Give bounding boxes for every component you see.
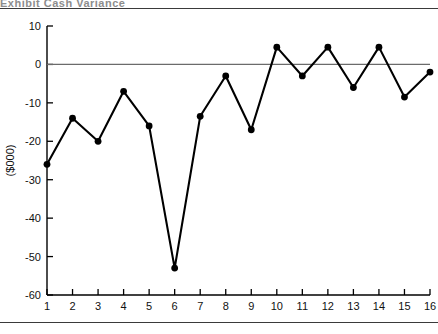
data-point — [44, 161, 51, 168]
x-axis-tick-label: 11 — [297, 300, 308, 312]
y-axis-tick-label: -30 — [25, 174, 41, 186]
data-point — [120, 88, 127, 95]
x-axis-tick-label: 14 — [373, 300, 385, 312]
y-axis-tick-label: -20 — [25, 135, 41, 147]
chart-svg: 100-10-20-30-40-50-60 123456789101112131… — [0, 8, 438, 322]
x-axis-tick-label: 8 — [223, 300, 229, 312]
line-chart: 100-10-20-30-40-50-60 123456789101112131… — [0, 8, 438, 322]
y-axis-tick-label: -10 — [25, 97, 41, 109]
x-axis-tick-label: 5 — [146, 300, 152, 312]
x-axis-tick-label: 16 — [424, 300, 436, 312]
x-axis-tick-label: 7 — [197, 300, 203, 312]
y-axis-tick-label: 0 — [35, 58, 41, 70]
data-point — [350, 84, 357, 91]
data-point — [171, 265, 178, 272]
data-point — [248, 126, 255, 133]
y-axis-tick-label: -40 — [25, 212, 41, 224]
data-point — [273, 44, 280, 51]
x-axis-tick-label: 13 — [347, 300, 359, 312]
x-axis-tick-label: 9 — [248, 300, 254, 312]
page-rule-bottom — [0, 322, 438, 323]
x-axis-tick-label: 1 — [44, 300, 50, 312]
x-axis-tick-label: 12 — [322, 300, 334, 312]
x-axis-ticks — [47, 289, 430, 295]
data-point — [427, 69, 434, 76]
data-point — [401, 94, 408, 101]
data-point — [69, 115, 76, 122]
y-axis-label: ($000) — [4, 145, 16, 177]
x-axis-tick-label: 3 — [95, 300, 101, 312]
clipped-header-text: Exhibit Cash Variance — [0, 0, 180, 7]
x-axis-tick-label: 2 — [69, 300, 75, 312]
x-axis-tick-label: 6 — [172, 300, 178, 312]
y-axis-tick-label: -60 — [25, 289, 41, 301]
data-point — [299, 73, 306, 80]
y-axis-tick-labels: 100-10-20-30-40-50-60 — [25, 20, 41, 301]
x-axis-tick-label: 4 — [121, 300, 127, 312]
page-canvas: Exhibit Cash Variance 100-10-20-30-40-50… — [0, 0, 438, 334]
data-point — [95, 138, 102, 145]
data-point — [324, 44, 331, 51]
data-point — [376, 44, 383, 51]
y-axis-tick-label: -50 — [25, 251, 41, 263]
data-point — [146, 123, 153, 130]
data-point-markers — [44, 44, 434, 272]
data-point — [197, 113, 204, 120]
x-axis-tick-labels: 12345678910111213141516 — [44, 300, 436, 312]
data-series-line — [47, 47, 430, 268]
x-axis-tick-label: 10 — [271, 300, 283, 312]
data-point — [222, 73, 229, 80]
y-axis-tick-label: 10 — [29, 20, 41, 32]
x-axis-tick-label: 15 — [398, 300, 410, 312]
